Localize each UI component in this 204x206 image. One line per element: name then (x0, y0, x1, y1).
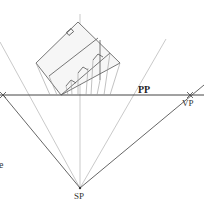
sp-point (79, 187, 81, 189)
vp-label: VP (182, 98, 194, 108)
sp-label: SP (74, 191, 84, 201)
diagram-lines (0, 0, 204, 206)
partial-text: e (0, 159, 3, 170)
sp-to-left-vp (3, 95, 80, 188)
pp-label: PP (138, 84, 150, 95)
perspective-diagram: PP VP SP e (0, 0, 204, 206)
